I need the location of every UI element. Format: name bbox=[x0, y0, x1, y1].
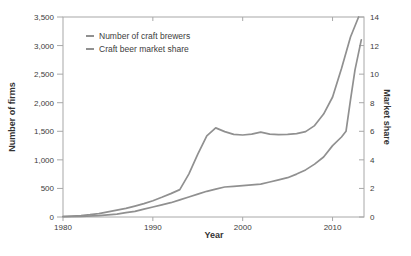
legend-line-marker bbox=[86, 35, 94, 37]
y-left-tick-label: 1,000 bbox=[34, 156, 55, 165]
y-right-tick-label: 4 bbox=[370, 156, 375, 165]
x-tick-label: 1990 bbox=[144, 223, 162, 232]
legend-label-market-share: Craft beer market share bbox=[99, 44, 189, 54]
x-tick-label: 2000 bbox=[234, 223, 252, 232]
x-tick-label: 1980 bbox=[54, 223, 72, 232]
series-line-craft-beer-market-share bbox=[63, 40, 361, 217]
legend-item-market-share: Craft beer market share bbox=[86, 44, 190, 54]
y-right-tick-label: 0 bbox=[370, 213, 375, 222]
y-left-tick-label: 0 bbox=[50, 213, 55, 222]
x-axis-label: Year bbox=[204, 230, 223, 240]
y-right-tick-label: 12 bbox=[370, 42, 379, 51]
y-right-tick-label: 6 bbox=[370, 127, 375, 136]
y-right-tick-label: 8 bbox=[370, 99, 375, 108]
legend-line-marker bbox=[86, 48, 94, 50]
plot-area: 198019902000201005001,0001,5002,0002,500… bbox=[0, 0, 411, 256]
y-left-tick-label: 2,500 bbox=[34, 70, 55, 79]
y-left-tick-label: 3,000 bbox=[34, 42, 55, 51]
y-axis-label-left: Number of firms bbox=[7, 82, 17, 152]
legend: Number of craft brewers Craft beer marke… bbox=[86, 31, 190, 54]
y-right-tick-label: 14 bbox=[370, 13, 379, 22]
y-axis-label-right: Market share bbox=[382, 89, 392, 145]
y-left-tick-label: 2,000 bbox=[34, 99, 55, 108]
y-left-tick-label: 3,500 bbox=[34, 13, 55, 22]
y-right-tick-label: 2 bbox=[370, 184, 375, 193]
legend-label-brewers: Number of craft brewers bbox=[99, 31, 190, 41]
legend-item-brewers: Number of craft brewers bbox=[86, 31, 190, 41]
y-left-tick-label: 500 bbox=[41, 184, 55, 193]
y-right-tick-label: 10 bbox=[370, 70, 379, 79]
craft-beer-chart: 198019902000201005001,0001,5002,0002,500… bbox=[0, 0, 411, 256]
y-left-tick-label: 1,500 bbox=[34, 127, 55, 136]
x-tick-label: 2010 bbox=[324, 223, 342, 232]
